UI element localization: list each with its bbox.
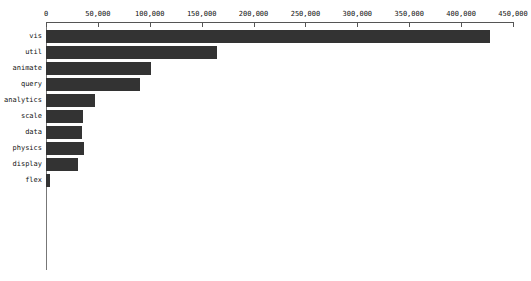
x-axis-tick-label: 150,000 xyxy=(187,10,217,18)
x-axis-tick-label: 300,000 xyxy=(343,10,373,18)
bar xyxy=(46,142,84,155)
bar xyxy=(46,46,217,59)
y-axis-tick-label: scale xyxy=(21,110,42,123)
bar-row: scale xyxy=(46,110,513,123)
plot-area: visutilanimatequeryanalyticsscaledataphy… xyxy=(46,22,513,270)
y-axis-tick-label: query xyxy=(21,78,42,91)
y-axis-tick-label: physics xyxy=(12,142,42,155)
bar-row: physics xyxy=(46,142,513,155)
bar xyxy=(46,30,490,43)
bar-row: animate xyxy=(46,62,513,75)
y-axis-tick-label: animate xyxy=(12,62,42,75)
y-axis-tick-label: data xyxy=(25,126,42,139)
x-axis-tick-label: 400,000 xyxy=(446,10,476,18)
bar xyxy=(46,126,82,139)
bar xyxy=(46,62,151,75)
bar-row: analytics xyxy=(46,94,513,107)
y-axis-tick-label: flex xyxy=(25,174,42,187)
bar-row: display xyxy=(46,158,513,171)
bar-row: vis xyxy=(46,30,513,43)
bar xyxy=(46,110,83,123)
y-axis-tick-label: util xyxy=(25,46,42,59)
bar-row: data xyxy=(46,126,513,139)
bar-chart: 050,000100,000150,000200,000250,000300,0… xyxy=(0,0,531,281)
bar xyxy=(46,174,50,187)
bar xyxy=(46,78,140,91)
bar-row: query xyxy=(46,78,513,91)
x-axis-tick xyxy=(513,22,514,27)
y-axis-tick-label: analytics xyxy=(4,94,42,107)
x-axis-tick-label: 200,000 xyxy=(239,10,269,18)
bar-row: flex xyxy=(46,174,513,187)
y-axis-tick-label: vis xyxy=(29,30,42,43)
bar-row: util xyxy=(46,46,513,59)
y-axis-tick-label: display xyxy=(12,158,42,171)
x-axis-tick-label: 250,000 xyxy=(291,10,321,18)
x-axis-tick-label: 50,000 xyxy=(85,10,110,18)
bar xyxy=(46,94,95,107)
x-axis-tick-label: 450,000 xyxy=(498,10,528,18)
bar xyxy=(46,158,78,171)
x-axis-tick-label: 100,000 xyxy=(135,10,165,18)
x-axis-tick-label: 350,000 xyxy=(394,10,424,18)
x-axis-tick-label: 0 xyxy=(44,10,48,18)
